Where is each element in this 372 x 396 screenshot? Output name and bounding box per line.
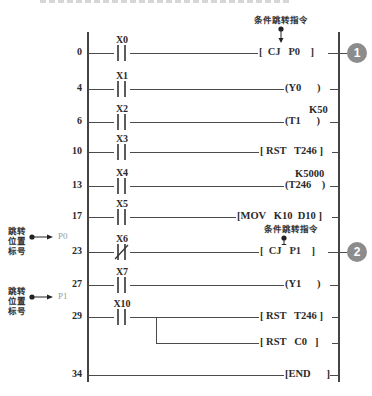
no-contact-x10-icon bbox=[114, 309, 130, 325]
rung-23-right-wire bbox=[328, 252, 338, 253]
rung-29-branch-right-wire bbox=[332, 343, 338, 344]
no-contact-x7-icon bbox=[114, 277, 130, 293]
step-number-29: 29 bbox=[62, 310, 82, 321]
rung-29-branch-wire bbox=[156, 343, 260, 344]
cj-p1-instruction: [ CJ P1 ] bbox=[259, 245, 316, 256]
rst-t246-instruction-2: [ RST T246 ] bbox=[259, 310, 324, 321]
rst-c0-instruction: [ RST C0 ] bbox=[259, 336, 319, 347]
rung-29-right-wire bbox=[332, 317, 338, 318]
step-number-34: 34 bbox=[62, 368, 82, 379]
callout-badge-2: 2 bbox=[347, 242, 367, 262]
step-number-27: 27 bbox=[62, 278, 82, 289]
contact-label-x6: X6 bbox=[107, 233, 137, 244]
end-instruction: [END ] bbox=[284, 368, 331, 379]
rung-34-wire bbox=[88, 375, 284, 376]
rung-29-branch-vertical bbox=[156, 317, 157, 343]
nc-contact-x6-icon bbox=[114, 244, 130, 260]
badge-2-connector bbox=[339, 252, 347, 253]
out-y1-instruction: (Y1 ) bbox=[284, 278, 322, 289]
rung-27-right-wire bbox=[330, 285, 338, 286]
contact-label-x7: X7 bbox=[107, 266, 137, 277]
pointer-p1: P1 bbox=[58, 291, 68, 301]
rung-34-right-wire bbox=[330, 375, 338, 376]
contact-label-x10: X10 bbox=[107, 298, 137, 309]
step-number-23: 23 bbox=[62, 245, 82, 256]
